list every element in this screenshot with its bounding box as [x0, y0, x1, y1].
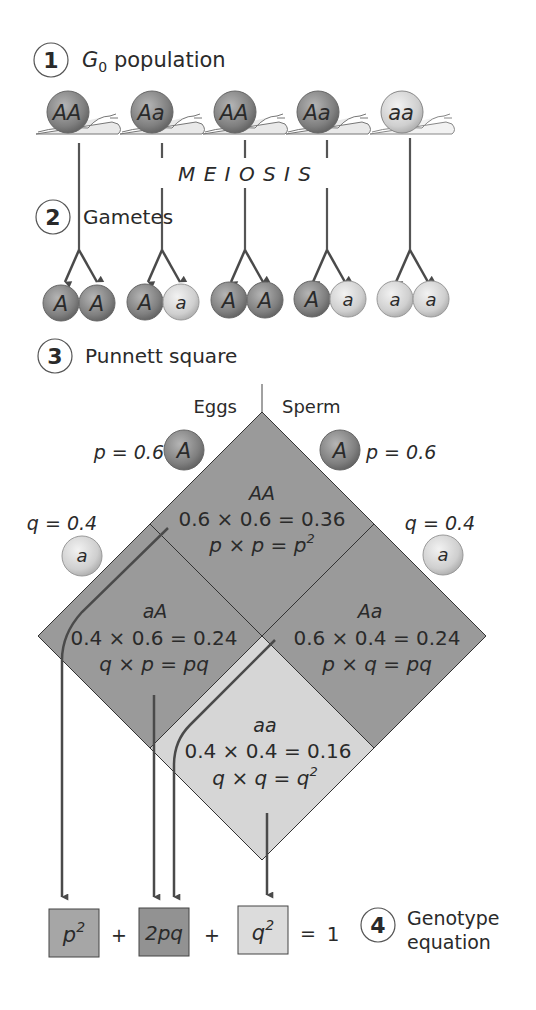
hardy-weinberg-diagram: 1 G0 population AA Aa AA Aa aa: [0, 0, 536, 1010]
step-1-number: 1: [43, 48, 58, 73]
snail-genotype: Aa: [135, 101, 164, 125]
cell-aA-calc: 0.4 × 0.6 = 0.24: [70, 626, 237, 650]
sperm-allele-A: A: [331, 439, 347, 463]
gamete-allele: A: [136, 291, 152, 315]
sperm-A-frequency: p = 0.6: [365, 441, 436, 463]
cell-Aa-genotype: Aa: [356, 600, 383, 622]
gamete-pair-1: A A: [43, 285, 115, 321]
snail-4: Aa: [286, 91, 371, 134]
gamete-allele: A: [88, 292, 104, 316]
eggs-allele-A: A: [175, 439, 191, 463]
step-1-header: 1 G0 population: [34, 43, 226, 77]
step-3-header: 3 Punnett square: [38, 339, 237, 373]
equation-term-2pq: 2pq: [145, 921, 183, 945]
equation-result: 1: [327, 922, 340, 946]
gamete-pair-5: a a: [377, 281, 449, 317]
cell-Aa-formula: p × q = pq: [321, 652, 432, 676]
step-1-label: G0 population: [82, 48, 226, 75]
equation-plus-1: +: [111, 924, 127, 946]
cell-AA-formula: p × p = p2: [208, 531, 314, 557]
cell-aA-formula: q × p = pq: [99, 652, 209, 676]
gamete-pair-3: A A: [211, 282, 283, 318]
snail-genotype: aa: [388, 101, 414, 125]
cell-aa-calc: 0.4 × 0.4 = 0.16: [184, 739, 351, 763]
gamete-pair-4: A a: [294, 281, 366, 317]
cell-aa-formula: q × q = q2: [212, 764, 317, 790]
snail-genotype: AA: [51, 101, 82, 125]
equation-plus-2: +: [204, 924, 220, 946]
cell-aA-genotype: aA: [143, 600, 168, 622]
snail-2: Aa: [120, 91, 205, 134]
step-3-label: Punnett square: [85, 344, 237, 368]
population-row: AA Aa AA Aa aa: [36, 91, 455, 134]
snail-5: aa: [370, 91, 455, 134]
gamete-allele: A: [303, 288, 319, 312]
step-4-number: 4: [370, 913, 385, 938]
eggs-A-frequency: p = 0.6: [93, 441, 164, 463]
gametes-row: A A A a A A A a a a: [43, 281, 449, 321]
eggs-a-frequency: q = 0.4: [27, 512, 97, 534]
gamete-allele: a: [342, 289, 353, 310]
snail-3: AA: [203, 91, 288, 134]
step-2-label: Gametes: [83, 205, 173, 229]
gamete-allele: A: [256, 289, 272, 313]
gamete-allele: A: [52, 292, 68, 316]
cell-Aa-calc: 0.6 × 0.4 = 0.24: [293, 626, 460, 650]
step-4-label-line1: Genotype: [407, 907, 500, 929]
cell-AA-genotype: AA: [247, 482, 275, 504]
snail-genotype: AA: [218, 101, 249, 125]
step-2-number: 2: [45, 205, 60, 230]
gamete-allele: a: [425, 289, 436, 310]
gamete-pair-2: A a: [127, 284, 199, 320]
step-2-header: 2 Gametes: [36, 200, 173, 234]
punnett-square: Eggs Sperm p = 0.6 A A p = 0.6 q = 0.4 a…: [27, 384, 486, 860]
eggs-label: Eggs: [193, 396, 237, 417]
step-4-label-line2: equation: [407, 931, 491, 953]
meiosis-lines: [79, 138, 410, 250]
genotype-equation: p2 + 2pq + q2 = 1 4 Genotype equation: [49, 906, 500, 957]
meiosis-label: M E I O S I S: [178, 162, 312, 186]
gamete-allele: a: [389, 289, 400, 310]
gamete-allele: A: [220, 289, 236, 313]
snail-genotype: Aa: [301, 101, 330, 125]
equation-equals: =: [300, 922, 316, 944]
cell-aa-genotype: aa: [253, 714, 276, 736]
sperm-allele-a: a: [437, 544, 448, 565]
snail-1: AA: [36, 91, 121, 134]
sperm-label: Sperm: [282, 396, 341, 417]
cell-AA-calc: 0.6 × 0.6 = 0.36: [178, 507, 345, 531]
gamete-allele: a: [175, 292, 186, 313]
gamete-split-arrows: [65, 250, 428, 282]
sperm-a-frequency: q = 0.4: [405, 512, 475, 534]
step-3-number: 3: [47, 344, 62, 369]
eggs-allele-a: a: [76, 545, 87, 566]
